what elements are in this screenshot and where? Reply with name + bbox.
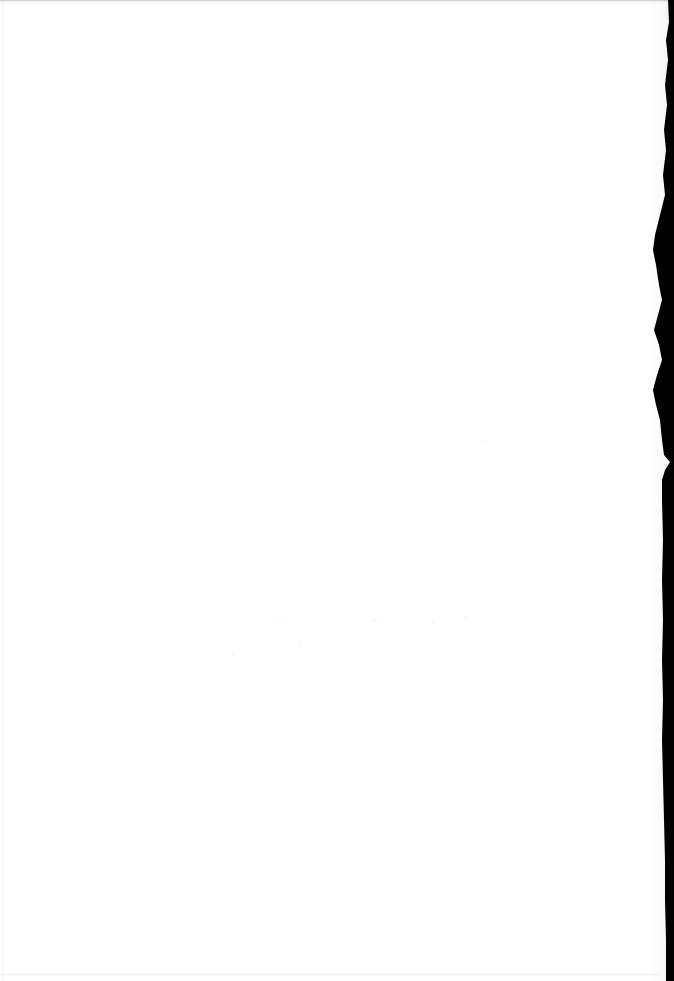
scan-speckle — [372, 620, 377, 622]
scanned-page — [0, 0, 674, 981]
scan-speckle — [432, 621, 434, 624]
paper-surface — [0, 0, 674, 981]
bottom-platen-edge-line — [0, 974, 660, 975]
scan-speckle — [464, 617, 468, 619]
gutter-shadow-shape — [644, 0, 674, 981]
scan-speckle — [484, 440, 487, 442]
scan-speckle — [232, 652, 234, 656]
scan-speckle — [278, 618, 282, 620]
left-platen-edge-line — [2, 0, 3, 981]
scan-speckle — [299, 641, 301, 643]
top-scan-band-artifact — [0, 0, 674, 3]
right-gutter-shadow — [644, 0, 674, 981]
